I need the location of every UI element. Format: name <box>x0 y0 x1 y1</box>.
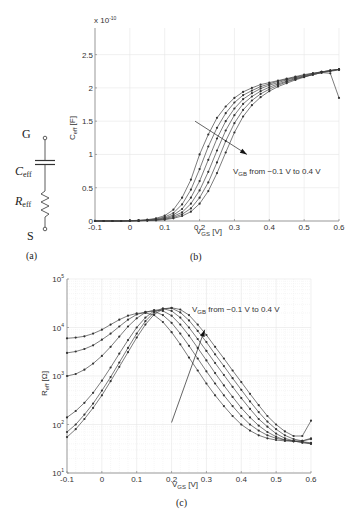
x-tick-label: 0 <box>128 223 133 232</box>
x-tick-label: 0.4 <box>236 475 248 484</box>
x-axis-label: VGS [V] <box>196 227 222 237</box>
panel-label-b: (b) <box>190 251 202 263</box>
circuit-diagram: G Ceff Reff S <box>14 127 55 243</box>
y-tick-label: 0.5 <box>82 184 94 193</box>
y-tick-label: 2 <box>89 84 94 93</box>
figure: G Ceff Reff S (a) -0.100.10.20.30.40.50.… <box>0 0 359 531</box>
y-tick-label: 102 <box>52 419 64 430</box>
y-axis-label: Ceff [F] <box>68 116 78 140</box>
trend-arrow <box>195 121 247 154</box>
x-tick-label: 0.4 <box>264 223 276 232</box>
x-tick-label: 0.6 <box>305 475 317 484</box>
panel-label-c: (c) <box>176 497 187 509</box>
capacitance-plot: -0.100.10.20.30.40.50.600.511.522.5x 10-… <box>68 15 345 237</box>
x-tick-label: 0.3 <box>229 223 241 232</box>
x-tick-label: 0.6 <box>333 223 345 232</box>
terminal-g-label: G <box>22 127 31 141</box>
y-tick-label: 1 <box>89 150 94 159</box>
y-tick-label: 103 <box>52 370 64 381</box>
x-axis-label: VGS [V] <box>172 480 198 490</box>
grid <box>95 28 339 221</box>
series-group <box>94 68 340 222</box>
data-series <box>95 69 339 221</box>
capacitor-symbol <box>35 161 55 165</box>
y-tick-label: 105 <box>52 273 64 284</box>
x-tick-label: 0.5 <box>299 223 311 232</box>
terminal-s-label: S <box>27 229 34 243</box>
x-tick-label: 0.1 <box>131 475 143 484</box>
resistor-label: Reff <box>14 194 31 209</box>
annotation-label: VGB from −0.1 V to 0.4 V <box>192 305 280 315</box>
capacitor-label: Ceff <box>15 164 32 179</box>
x-tick-label: 0.5 <box>271 475 283 484</box>
x-tick-label: 0.1 <box>159 223 171 232</box>
data-series <box>95 69 339 221</box>
data-series <box>95 69 339 221</box>
resistance-plot: -0.100.10.20.30.40.50.6101102103104105VG… <box>40 273 317 490</box>
y-multiplier: x 10-10 <box>94 15 117 25</box>
x-tick-label: 0 <box>100 475 105 484</box>
y-tick-label: 104 <box>52 322 64 333</box>
annotation-label: VGB from −0.1 V to 0.4 V <box>233 167 321 177</box>
data-series <box>95 70 339 221</box>
y-tick-label: 0 <box>89 217 94 226</box>
terminal-g-node <box>43 136 47 140</box>
x-tick-label: -0.1 <box>60 475 74 484</box>
y-tick-label: 2.5 <box>82 51 94 60</box>
panel-label-a: (a) <box>26 250 37 262</box>
x-tick-label: 0.3 <box>201 475 213 484</box>
data-series <box>95 69 339 221</box>
resistor-symbol <box>41 191 49 217</box>
y-tick-label: 1.5 <box>82 117 94 126</box>
terminal-s-node <box>43 227 47 231</box>
data-series <box>95 73 339 221</box>
y-axis-label: Reff [Ω] <box>40 371 50 396</box>
